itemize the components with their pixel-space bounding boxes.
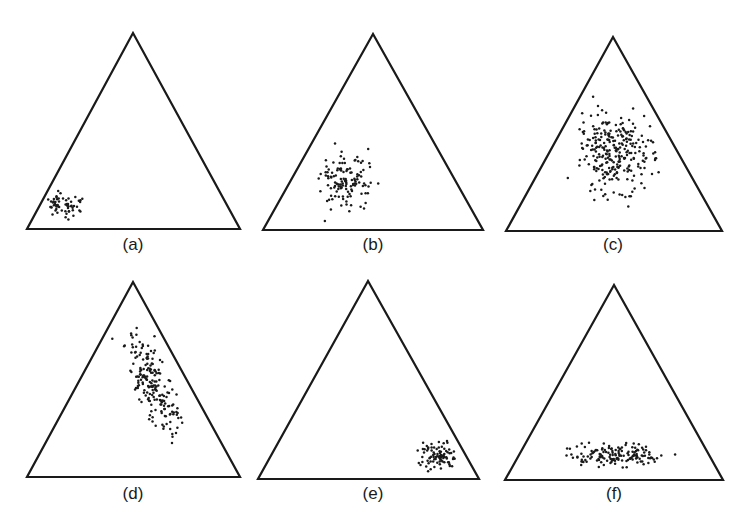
data-point bbox=[593, 133, 596, 136]
data-point bbox=[72, 215, 75, 218]
data-point bbox=[330, 208, 333, 211]
data-point bbox=[429, 456, 432, 459]
data-point bbox=[590, 450, 593, 453]
data-point bbox=[340, 204, 343, 207]
data-point bbox=[148, 418, 151, 421]
panel-a: (a) bbox=[27, 33, 240, 254]
data-point bbox=[353, 159, 356, 162]
data-point bbox=[345, 188, 348, 191]
data-point bbox=[633, 174, 636, 177]
data-point bbox=[430, 449, 433, 452]
data-point bbox=[607, 122, 610, 125]
data-point bbox=[155, 372, 158, 375]
data-point bbox=[327, 175, 330, 178]
data-point bbox=[153, 398, 156, 401]
data-point bbox=[619, 448, 622, 451]
data-point bbox=[341, 180, 344, 183]
data-point bbox=[645, 145, 648, 148]
data-point bbox=[151, 363, 154, 366]
data-point bbox=[330, 195, 333, 198]
scatter-cluster bbox=[416, 440, 455, 473]
data-point bbox=[576, 445, 579, 448]
data-point bbox=[330, 187, 333, 190]
data-point bbox=[611, 454, 614, 457]
data-point bbox=[614, 173, 617, 176]
data-point bbox=[139, 351, 142, 354]
panel-label: (a) bbox=[123, 235, 144, 254]
data-point bbox=[443, 456, 446, 459]
data-point bbox=[342, 184, 345, 187]
data-point bbox=[640, 182, 643, 185]
data-point bbox=[343, 157, 346, 160]
data-point bbox=[633, 187, 636, 190]
data-point bbox=[592, 125, 595, 128]
data-point bbox=[589, 190, 592, 193]
data-point bbox=[606, 150, 609, 153]
data-point bbox=[367, 192, 370, 195]
data-point bbox=[607, 452, 610, 455]
data-point bbox=[367, 148, 370, 151]
data-point bbox=[149, 393, 152, 396]
panel-e: (e) bbox=[258, 281, 479, 503]
data-point bbox=[627, 205, 630, 208]
data-point bbox=[333, 175, 336, 178]
panel-label: (e) bbox=[363, 484, 384, 503]
data-point bbox=[632, 442, 635, 445]
data-point bbox=[164, 402, 167, 405]
data-point bbox=[632, 142, 635, 145]
data-point bbox=[361, 160, 364, 163]
ternary-triangle bbox=[258, 281, 479, 479]
data-point bbox=[70, 200, 73, 203]
panel-label: (f) bbox=[606, 484, 622, 503]
data-point bbox=[357, 160, 360, 163]
data-point bbox=[604, 193, 607, 196]
data-point bbox=[600, 188, 603, 191]
data-point bbox=[154, 409, 157, 412]
data-point bbox=[638, 443, 641, 446]
data-point bbox=[604, 121, 607, 124]
data-point bbox=[608, 178, 611, 181]
data-point bbox=[135, 333, 138, 336]
data-point bbox=[593, 451, 596, 454]
data-point bbox=[639, 167, 642, 170]
data-point bbox=[334, 195, 337, 198]
data-point bbox=[624, 196, 627, 199]
data-point bbox=[612, 161, 615, 164]
data-point bbox=[606, 199, 609, 202]
data-point bbox=[643, 187, 646, 190]
data-point bbox=[616, 172, 619, 175]
data-point bbox=[625, 145, 628, 148]
data-point bbox=[426, 459, 429, 462]
data-point bbox=[356, 178, 359, 181]
data-point bbox=[433, 466, 436, 469]
data-point bbox=[440, 467, 443, 470]
data-point bbox=[651, 457, 654, 460]
data-point bbox=[55, 196, 58, 199]
data-point bbox=[636, 456, 639, 459]
data-point bbox=[629, 143, 632, 146]
data-point bbox=[631, 135, 634, 138]
panel-c: (c) bbox=[506, 37, 722, 254]
data-point bbox=[448, 448, 451, 451]
data-point bbox=[606, 460, 609, 463]
data-point bbox=[154, 387, 157, 390]
data-point bbox=[585, 155, 588, 158]
data-point bbox=[335, 190, 338, 193]
data-point bbox=[176, 426, 179, 429]
data-point bbox=[159, 359, 162, 362]
data-point bbox=[635, 142, 638, 145]
data-point bbox=[356, 173, 359, 176]
data-point bbox=[342, 198, 345, 201]
data-point bbox=[591, 183, 594, 186]
data-point bbox=[175, 411, 178, 414]
data-point bbox=[620, 117, 623, 120]
data-point bbox=[601, 109, 604, 112]
data-point bbox=[64, 210, 67, 213]
data-point bbox=[603, 464, 606, 467]
data-point bbox=[601, 169, 604, 172]
data-point bbox=[607, 156, 610, 159]
data-point bbox=[134, 351, 137, 354]
data-point bbox=[352, 183, 355, 186]
data-point bbox=[642, 152, 645, 155]
data-point bbox=[598, 153, 601, 156]
